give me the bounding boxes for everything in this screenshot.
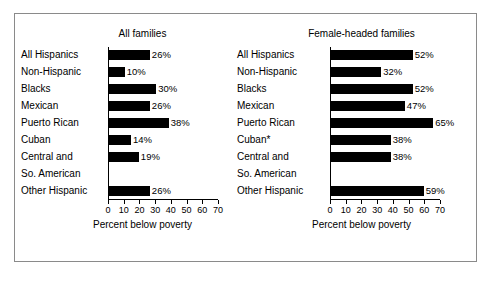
bar-row: 10% (108, 64, 218, 81)
x-axis-tick (330, 200, 331, 204)
bar-row: 52% (330, 81, 440, 98)
x-axis-caption: Percent below poverty (15, 219, 246, 231)
bar (109, 186, 150, 196)
x-axis-caption: Percent below poverty (237, 219, 468, 231)
bar-row: 38% (330, 132, 440, 149)
category-label-list: All HispanicsNon-HispanicBlacksMexicanPu… (21, 47, 111, 199)
panel-all-families: All families All HispanicsNon-HispanicBl… (15, 14, 246, 261)
x-axis-tick (124, 200, 125, 204)
x-axis-tick (155, 200, 156, 204)
bar-row: 38% (108, 115, 218, 132)
x-axis-tick (139, 200, 140, 204)
bar-row: 19% (108, 149, 218, 166)
bar-value-label: 30% (156, 82, 177, 95)
category-label: Cuban* (237, 134, 270, 146)
plot-area: 01020304050607052%32%52%47%65%38%38%59% (330, 47, 440, 199)
category-label: Mexican (21, 100, 58, 112)
x-axis-tick (440, 200, 441, 204)
bar-row: 38% (330, 149, 440, 166)
bar (331, 50, 413, 60)
bar-row: 52% (330, 47, 440, 64)
bar (109, 152, 139, 162)
x-axis-tick (171, 200, 172, 204)
bar-value-label: 52% (413, 48, 434, 61)
panel-title: All families (15, 28, 246, 40)
category-label: All Hispanics (21, 49, 78, 61)
bar-row: 26% (108, 98, 218, 115)
category-label: Other Hispanic (21, 185, 87, 197)
x-axis-tick-label: 70 (430, 205, 450, 216)
category-label: Puerto Rican (237, 117, 295, 129)
category-label: Blacks (21, 83, 50, 95)
x-axis-tick (424, 200, 425, 204)
bar-row: 59% (330, 183, 440, 200)
x-axis-tick (187, 200, 188, 204)
bar-value-label: 65% (433, 116, 454, 129)
bar (331, 186, 424, 196)
category-label: So. American (237, 168, 296, 180)
bar-row: 65% (330, 115, 440, 132)
bar (331, 118, 433, 128)
bar (331, 101, 405, 111)
bar (109, 101, 150, 111)
category-label: Blacks (237, 83, 266, 95)
bar (331, 67, 381, 77)
bar (109, 135, 131, 145)
plot-area: 01020304050607026%10%30%26%38%14%19%26% (108, 47, 218, 199)
bar (331, 152, 391, 162)
x-axis-tick (346, 200, 347, 204)
category-label: Central and (237, 151, 289, 163)
bar (331, 84, 413, 94)
bar-value-label: 52% (413, 82, 434, 95)
bar-value-label: 26% (150, 99, 171, 112)
x-axis-tick (409, 200, 410, 204)
category-label-list: All HispanicsNon-HispanicBlacksMexicanPu… (237, 47, 327, 199)
panel-title: Female-headed families (237, 28, 468, 40)
chart-figure: All families All HispanicsNon-HispanicBl… (14, 13, 477, 262)
bar (109, 118, 169, 128)
category-label: Cuban (21, 134, 50, 146)
bar-value-label: 38% (391, 133, 412, 146)
x-axis-tick (361, 200, 362, 204)
category-label: Other Hispanic (237, 185, 303, 197)
bar-value-label: 47% (405, 99, 426, 112)
x-axis-tick-label: 70 (208, 205, 228, 216)
bar-value-label: 10% (125, 65, 146, 78)
bar-value-label: 26% (150, 48, 171, 61)
bar-row: 30% (108, 81, 218, 98)
panel-female-headed-families: Female-headed families All HispanicsNon-… (237, 14, 468, 261)
bar-row: 26% (108, 47, 218, 64)
bar-value-label: 38% (169, 116, 190, 129)
bar-value-label: 38% (391, 150, 412, 163)
category-label: So. American (21, 168, 80, 180)
x-axis-tick (377, 200, 378, 204)
category-label: Central and (21, 151, 73, 163)
category-label: Non-Hispanic (237, 66, 297, 78)
x-axis-tick (108, 200, 109, 204)
bar-value-label: 59% (424, 184, 445, 197)
bar (109, 67, 125, 77)
bar (109, 84, 156, 94)
bar-row: 47% (330, 98, 440, 115)
x-axis-tick (393, 200, 394, 204)
bar-value-label: 26% (150, 184, 171, 197)
x-axis-tick (218, 200, 219, 204)
bar-value-label: 19% (139, 150, 160, 163)
bar (331, 135, 391, 145)
category-label: Non-Hispanic (21, 66, 81, 78)
x-axis-tick (202, 200, 203, 204)
bar-row: 26% (108, 183, 218, 200)
category-label: Mexican (237, 100, 274, 112)
bar-value-label: 32% (381, 65, 402, 78)
bar (109, 50, 150, 60)
bar-value-label: 14% (131, 133, 152, 146)
bar-row: 14% (108, 132, 218, 149)
category-label: Puerto Rican (21, 117, 79, 129)
bar-row: 32% (330, 64, 440, 81)
category-label: All Hispanics (237, 49, 294, 61)
